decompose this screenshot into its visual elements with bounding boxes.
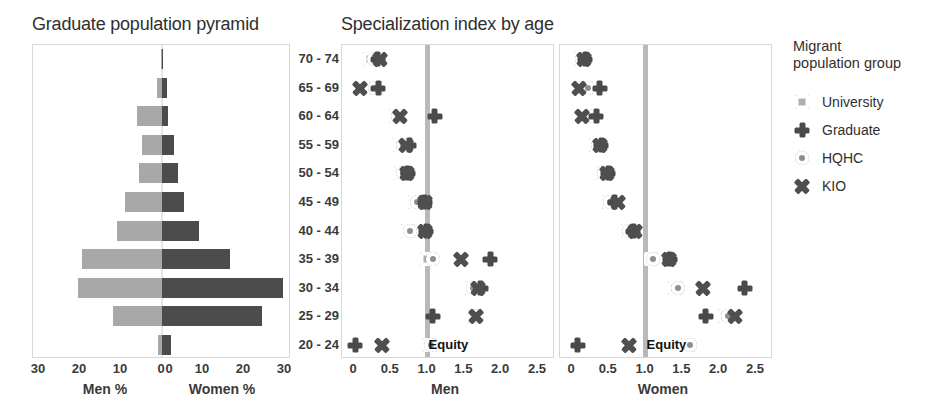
graduate-marker-icon	[795, 123, 810, 138]
legend-label: HQHC	[822, 150, 863, 166]
specialization-chart-title: Specialization index by age	[341, 14, 554, 35]
figure-root: Graduate population pyramid Specializati…	[0, 0, 935, 418]
legend-title-line1: Migrant	[793, 38, 933, 55]
kio-marker-icon	[418, 223, 433, 238]
graduate-marker-icon	[737, 280, 752, 295]
pyramid-bar-women	[162, 163, 178, 183]
kio-marker-icon	[470, 280, 485, 295]
pyramid-bar-men	[125, 192, 162, 212]
age-group-label: 40 - 44	[299, 222, 339, 237]
axis-tick: 2.0	[709, 361, 727, 376]
hqhc-marker-icon	[795, 151, 809, 165]
legend-symbol	[793, 177, 811, 195]
pyramid-bar-women	[162, 49, 163, 69]
axis-tick: 0.5	[599, 361, 617, 376]
age-group-label: 50 - 54	[299, 165, 339, 180]
pyramid-bar-women	[162, 278, 283, 298]
kio-marker-icon	[728, 309, 743, 324]
kio-marker-icon	[610, 195, 625, 210]
graduate-marker-icon	[425, 309, 440, 324]
pyramid-bar-men	[142, 135, 163, 155]
pyramid-bar-women	[162, 135, 174, 155]
kio-marker-icon	[627, 223, 642, 238]
age-group-label: 55 - 59	[299, 136, 339, 151]
hqhc-marker-icon	[426, 252, 440, 266]
legend-item[interactable]: KIO	[793, 172, 933, 200]
kio-marker-icon	[372, 52, 387, 67]
kio-marker-icon	[398, 137, 413, 152]
legend-label: Graduate	[822, 122, 880, 138]
kio-marker-icon	[576, 52, 591, 67]
legend-symbol	[793, 149, 811, 167]
kio-marker-icon	[469, 309, 484, 324]
legend-title-line2: population group	[793, 55, 933, 72]
kio-marker-icon	[795, 179, 810, 194]
pyramid-bar-women	[162, 78, 167, 98]
legend-item[interactable]: University	[793, 88, 933, 116]
pyramid-bar-women	[162, 306, 262, 326]
graduate-marker-icon	[570, 337, 585, 352]
age-group-label: 20 - 24	[299, 336, 339, 351]
kio-marker-icon	[575, 109, 590, 124]
legend-title: Migrant population group	[793, 38, 933, 72]
graduate-marker-icon	[589, 109, 604, 124]
pyramid-bar-men	[82, 249, 162, 269]
pyramid-bar-women	[162, 335, 171, 355]
age-group-label: 65 - 69	[299, 79, 339, 94]
age-group-label: 45 - 49	[299, 194, 339, 209]
legend: Migrant population group UniversityGradu…	[793, 38, 933, 200]
kio-marker-icon	[622, 337, 637, 352]
kio-marker-icon	[399, 166, 414, 181]
axis-tick: 2.5	[746, 361, 764, 376]
legend-label: University	[822, 94, 883, 110]
pyramid-bar-men	[137, 106, 162, 126]
pyramid-axis-label-men: Men %	[83, 381, 127, 397]
pyramid-bar-women	[162, 249, 230, 269]
equity-reference-line-women	[643, 45, 648, 357]
legend-item[interactable]: Graduate	[793, 116, 933, 144]
pyramid-chart-title: Graduate population pyramid	[32, 14, 259, 35]
equity-label-men: Equity	[429, 337, 469, 352]
legend-symbol	[793, 93, 811, 111]
legend-items: UniversityGraduateHQHCKIO	[793, 88, 933, 200]
equity-label-women: Equity	[647, 337, 687, 352]
kio-marker-icon	[599, 166, 614, 181]
graduate-marker-icon	[483, 252, 498, 267]
age-group-label: 70 - 74	[299, 51, 339, 66]
kio-marker-icon	[572, 80, 587, 95]
axis-tick: 1.0	[636, 361, 654, 376]
pyramid-bar-men	[78, 278, 162, 298]
kio-marker-icon	[352, 80, 367, 95]
pyramid-bar-women	[162, 221, 199, 241]
pyramid-bar-men	[139, 163, 162, 183]
age-group-axis: 70 - 7465 - 6960 - 6455 - 5950 - 5445 - …	[291, 44, 341, 358]
kio-marker-icon	[374, 337, 389, 352]
women-x-axis-ticks: 00.51.01.52.02.5	[0, 361, 935, 381]
graduate-marker-icon	[592, 80, 607, 95]
graduate-marker-icon	[348, 337, 363, 352]
pyramid-bar-women	[162, 192, 184, 212]
hqhc-marker-icon	[646, 252, 660, 266]
age-group-label: 35 - 39	[299, 251, 339, 266]
axis-tick: 0	[567, 361, 574, 376]
specialization-men-plot	[341, 44, 554, 358]
kio-marker-icon	[453, 252, 468, 267]
legend-label: KIO	[822, 178, 846, 194]
women-axis-label: Women	[638, 381, 688, 397]
hqhc-marker-icon	[403, 224, 417, 238]
kio-marker-icon	[662, 252, 677, 267]
legend-symbol	[793, 121, 811, 139]
age-group-label: 30 - 34	[299, 279, 339, 294]
age-group-label: 25 - 29	[299, 308, 339, 323]
pyramid-bar-men	[117, 221, 162, 241]
graduate-marker-icon	[698, 309, 713, 324]
kio-marker-icon	[418, 195, 433, 210]
legend-item[interactable]: HQHC	[793, 144, 933, 172]
age-group-label: 60 - 64	[299, 108, 339, 123]
axis-tick: 1.5	[672, 361, 690, 376]
pyramid-bar-men	[113, 306, 162, 326]
university-marker-icon	[795, 95, 809, 109]
pyramid-axis-label-women: Women %	[189, 381, 256, 397]
population-pyramid-plot	[32, 44, 290, 358]
men-axis-label: Men	[431, 381, 459, 397]
